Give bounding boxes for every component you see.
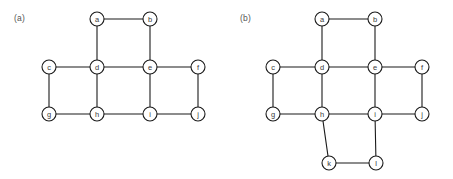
graph-node-h[interactable]: h (90, 107, 104, 121)
node-label-e: e (148, 63, 152, 72)
node-label-g: g (47, 110, 51, 119)
graph-node-b[interactable]: b (143, 12, 157, 26)
node-label-d: d (95, 63, 99, 72)
edge-group (49, 19, 198, 114)
graph-canvas-a: abcdefghij (0, 0, 226, 179)
node-label-b: b (373, 15, 377, 24)
graph-node-b[interactable]: b (368, 12, 382, 26)
node-label-c: c (47, 63, 51, 72)
graph-node-i[interactable]: i (368, 107, 382, 121)
graph-node-h[interactable]: h (315, 107, 329, 121)
graph-node-a[interactable]: a (315, 12, 329, 26)
graph-node-k[interactable]: k (322, 156, 336, 170)
graph-edge-l-i (375, 121, 376, 156)
graph-node-f[interactable]: f (191, 60, 205, 74)
graph-node-i[interactable]: i (143, 107, 157, 121)
graph-node-c[interactable]: c (266, 60, 280, 74)
node-label-c: c (271, 63, 275, 72)
graph-node-f[interactable]: f (415, 60, 429, 74)
graph-node-g[interactable]: g (42, 107, 56, 121)
graph-node-e[interactable]: e (368, 60, 382, 74)
node-label-d: d (320, 63, 324, 72)
edge-group (273, 19, 422, 163)
graph-panel-a: (a) abcdefghij (0, 0, 226, 179)
node-label-h: h (95, 110, 99, 119)
graph-canvas-b: abcdefghijkl (226, 0, 453, 179)
graph-edge-h-k (323, 121, 328, 156)
graph-node-a[interactable]: a (90, 12, 104, 26)
figure-root: (a) abcdefghij (b) abcdefghijkl (0, 0, 453, 179)
graph-node-d[interactable]: d (315, 60, 329, 74)
node-label-g: g (271, 110, 275, 119)
node-group: abcdefghijkl (266, 12, 429, 170)
graph-node-e[interactable]: e (143, 60, 157, 74)
graph-node-j[interactable]: j (191, 107, 205, 121)
node-label-h: h (320, 110, 324, 119)
node-label-j: j (420, 110, 423, 119)
graph-node-d[interactable]: d (90, 60, 104, 74)
graph-node-l[interactable]: l (369, 156, 383, 170)
node-label-e: e (373, 63, 377, 72)
graph-node-g[interactable]: g (266, 107, 280, 121)
graph-panel-b: (b) abcdefghijkl (226, 0, 453, 179)
graph-node-j[interactable]: j (415, 107, 429, 121)
node-label-j: j (196, 110, 199, 119)
node-label-k: k (327, 159, 331, 168)
node-label-b: b (148, 15, 152, 24)
graph-node-c[interactable]: c (42, 60, 56, 74)
